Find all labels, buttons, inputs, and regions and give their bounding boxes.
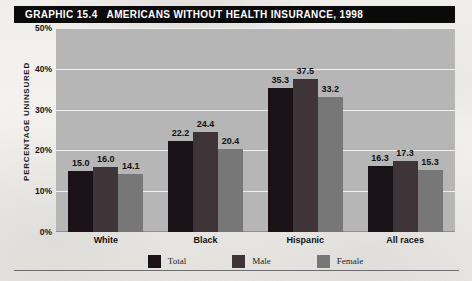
- bar: 15.3: [418, 170, 443, 232]
- bar-value-label: 15.3: [421, 157, 439, 167]
- bar-group: 22.224.420.4: [156, 28, 256, 232]
- legend-swatch: [232, 255, 245, 268]
- legend-label: Male: [252, 256, 271, 266]
- bar-group: 16.317.315.3: [355, 28, 455, 232]
- bar-value-label: 16.0: [97, 154, 115, 164]
- footer-rule: [14, 270, 459, 271]
- bar-group: 35.337.533.2: [256, 28, 356, 232]
- bar: 15.0: [68, 171, 93, 232]
- bar-value-label: 20.4: [222, 136, 240, 146]
- plot-area: 15.016.014.122.224.420.435.337.533.216.3…: [56, 28, 455, 232]
- y-axis-tick-label: 50%: [35, 23, 52, 33]
- bar: 17.3: [393, 161, 418, 232]
- bar: 22.2: [168, 141, 193, 232]
- bar-group-bars: 15.016.014.1: [56, 28, 156, 232]
- legend-label: Total: [168, 256, 186, 266]
- y-axis-tick-label: 0%: [40, 227, 52, 237]
- bar-value-label: 15.0: [72, 158, 90, 168]
- bar-group-bars: 16.317.315.3: [355, 28, 455, 232]
- bar: 16.0: [93, 167, 118, 232]
- bar: 35.3: [268, 88, 293, 232]
- bar: 33.2: [318, 97, 343, 232]
- bar-value-label: 35.3: [272, 75, 290, 85]
- chart-legend: TotalMaleFemale: [56, 251, 455, 271]
- bar: 16.3: [368, 166, 393, 233]
- y-axis-tick-label: 10%: [35, 186, 52, 196]
- legend-label: Female: [337, 256, 364, 266]
- x-axis-tick-label: White: [94, 235, 119, 245]
- bar: 14.1: [118, 174, 143, 232]
- bar: 37.5: [293, 79, 318, 232]
- legend-item: Total: [148, 255, 186, 268]
- bar-group-bars: 22.224.420.4: [156, 28, 256, 232]
- page-title: GRAPHIC 15.4AMERICANS WITHOUT HEALTH INS…: [14, 9, 363, 20]
- bar-value-label: 37.5: [297, 66, 315, 76]
- legend-item: Male: [232, 255, 271, 268]
- bar-group: 15.016.014.1: [56, 28, 156, 232]
- bar-group-bars: 35.337.533.2: [256, 28, 356, 232]
- y-axis-tick-label: 30%: [35, 105, 52, 115]
- legend-swatch: [317, 255, 330, 268]
- graphic-number: GRAPHIC 15.4: [25, 9, 98, 20]
- bar-value-label: 24.4: [197, 119, 215, 129]
- bar-value-label: 16.3: [371, 153, 389, 163]
- legend-swatch: [148, 255, 161, 268]
- bar-value-label: 22.2: [172, 128, 190, 138]
- x-axis-tick-label: Hispanic: [287, 235, 325, 245]
- y-axis-tick-label: 40%: [35, 64, 52, 74]
- y-axis-tick-labels: 0%10%20%30%40%50%: [24, 28, 52, 232]
- graphic-headline: AMERICANS WITHOUT HEALTH INSURANCE, 1998: [107, 9, 364, 20]
- bar-value-label: 33.2: [322, 84, 340, 94]
- x-axis-tick-label: Black: [194, 235, 218, 245]
- chart-area: PERCENTAGE UNINSURED 0%10%20%30%40%50% 1…: [0, 23, 472, 281]
- y-axis-tick-label: 20%: [35, 145, 52, 155]
- bar: 20.4: [218, 149, 243, 232]
- bar-value-label: 14.1: [122, 161, 140, 171]
- legend-item: Female: [317, 255, 364, 268]
- x-axis-tick-labels: WhiteBlackHispanicAll races: [56, 235, 455, 249]
- bar: 24.4: [193, 132, 218, 232]
- bar-value-label: 17.3: [396, 148, 414, 158]
- x-axis-tick-label: All races: [386, 235, 424, 245]
- graphic-title-band: GRAPHIC 15.4AMERICANS WITHOUT HEALTH INS…: [14, 6, 455, 23]
